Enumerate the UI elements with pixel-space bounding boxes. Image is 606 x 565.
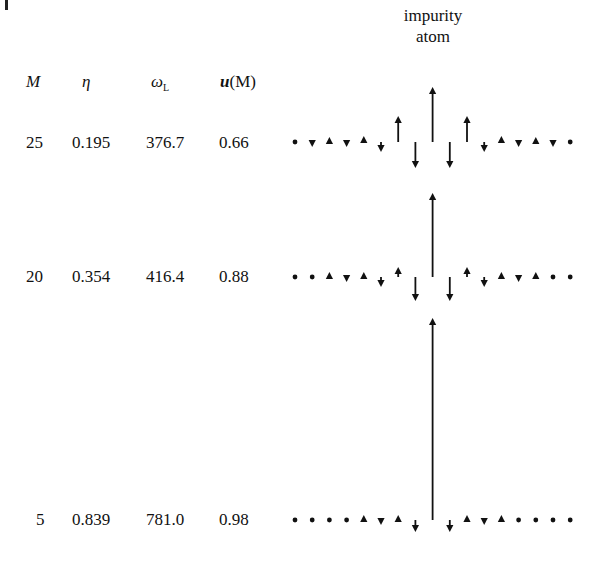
atom-dot — [293, 518, 298, 523]
atom-dot — [310, 275, 315, 280]
atom-dot — [516, 518, 521, 523]
down-triangle-icon — [549, 140, 556, 147]
atom-dot — [551, 275, 556, 280]
up-triangle-icon — [326, 272, 333, 279]
atom-dot — [293, 140, 298, 145]
arrow-head-up-icon — [429, 318, 436, 325]
down-triangle-icon — [343, 140, 350, 147]
arrow-head-up-icon — [429, 87, 436, 94]
arrow-head-up-icon — [463, 116, 470, 123]
arrow-head-up-icon — [395, 267, 402, 274]
arrow-head-up-icon — [463, 267, 470, 274]
arrow-head-down-icon — [446, 294, 453, 301]
down-triangle-icon — [377, 518, 384, 525]
atom-dot — [551, 518, 556, 523]
arrow-head-up-icon — [360, 136, 367, 143]
up-triangle-icon — [532, 272, 539, 279]
arrow-head-down-icon — [446, 161, 453, 168]
up-triangle-icon — [532, 137, 539, 144]
arrow-head-down-icon — [412, 294, 419, 301]
arrow-head-down-icon — [446, 525, 453, 532]
atom-dot — [533, 518, 538, 523]
atom-dot — [568, 518, 573, 523]
arrow-head-up-icon — [429, 193, 436, 200]
atom-dot — [310, 518, 315, 523]
down-triangle-icon — [309, 140, 316, 147]
up-triangle-icon — [498, 272, 505, 279]
arrow-head-down-icon — [412, 525, 419, 532]
up-triangle-icon — [395, 515, 402, 522]
arrow-head-up-icon — [395, 116, 402, 123]
arrow-head-down-icon — [377, 145, 384, 152]
up-triangle-icon — [326, 137, 333, 144]
arrow-head-down-icon — [481, 280, 488, 287]
atom-dot — [568, 140, 573, 145]
atom-dot — [344, 518, 349, 523]
atom-dot — [293, 275, 298, 280]
up-triangle-icon — [360, 272, 367, 279]
atom-dot — [327, 518, 332, 523]
up-triangle-icon — [498, 515, 505, 522]
arrow-head-down-icon — [412, 161, 419, 168]
displacement-diagram — [0, 0, 606, 565]
atom-dot — [568, 275, 573, 280]
down-triangle-icon — [515, 275, 522, 282]
arrow-head-up-icon — [498, 136, 505, 143]
down-triangle-icon — [481, 518, 488, 525]
up-triangle-icon — [360, 515, 367, 522]
down-triangle-icon — [343, 275, 350, 282]
arrow-head-down-icon — [377, 280, 384, 287]
arrow-head-down-icon — [481, 145, 488, 152]
down-triangle-icon — [515, 140, 522, 147]
up-triangle-icon — [463, 515, 470, 522]
